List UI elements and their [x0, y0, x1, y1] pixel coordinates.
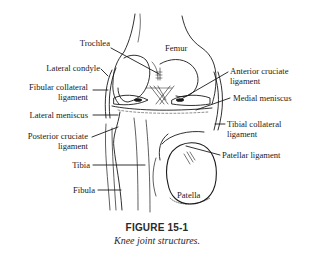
label-patella: Patella	[177, 190, 200, 200]
label-fibular-collateral-line1: Fibular collateral	[14, 82, 88, 92]
patellar-ligament	[159, 132, 204, 161]
label-medial-meniscus: Medial meniscus	[233, 93, 291, 103]
femur-outline-right	[182, 16, 216, 104]
label-tibial-collateral-line1: Tibial collateral	[227, 119, 281, 129]
label-posterior-cruciate-line1: Posterior cruciate	[10, 131, 88, 141]
knee-diagram: Femur Trochlea Lateral condyle Fibular c…	[0, 0, 314, 257]
lateral-condyle	[118, 55, 150, 102]
label-trochlea: Trochlea	[60, 38, 110, 48]
label-tibia: Tibia	[40, 160, 90, 170]
fibular-collateral-ligament	[105, 68, 116, 118]
figure-caption: Knee joint structures.	[0, 235, 314, 246]
label-lateral-meniscus: Lateral meniscus	[14, 110, 88, 120]
lateral-meniscus	[114, 95, 148, 105]
figure-number: FIGURE 15-1	[0, 222, 314, 233]
leader-lines	[92, 48, 230, 190]
cruciate-ligaments	[150, 86, 174, 104]
patella-hatching	[184, 152, 195, 164]
label-posterior-cruciate-line2: ligament	[10, 141, 88, 151]
label-fibula: Fibula	[40, 185, 95, 195]
label-anterior-cruciate-line1: Anterior cruciate	[230, 66, 288, 76]
label-lateral-condyle: Lateral condyle	[30, 63, 100, 73]
label-anterior-cruciate-line2: ligament	[230, 76, 260, 86]
label-femur: Femur	[165, 43, 187, 53]
label-tibial-collateral-line2: ligament	[227, 129, 257, 139]
tibia-inner	[134, 118, 138, 210]
label-fibular-collateral-line2: ligament	[14, 92, 88, 102]
femur-shaft-line	[138, 14, 140, 42]
label-patellar-ligament: Patellar ligament	[222, 150, 280, 160]
